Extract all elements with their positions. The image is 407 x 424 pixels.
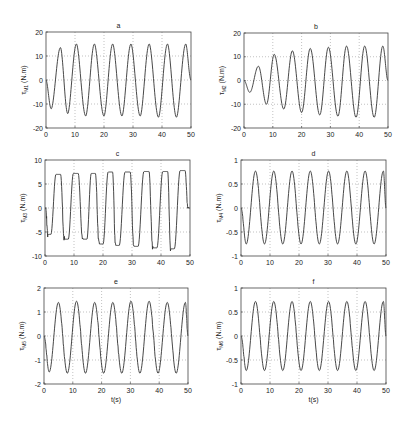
x-tick-label: 30 [327,131,335,138]
y-tick-label: 0 [39,77,43,84]
x-tick-label: 0 [239,387,243,394]
x-axis-label: t(s) [111,396,121,404]
subplot-c: 01020304050-10-50510cτM3(N.m) [19,150,194,266]
y-label-unit: (N.m) [18,321,26,339]
x-tick-label: 50 [382,387,390,394]
y-axis-label: τM5(N.m) [18,321,27,350]
x-axis-label: t(s) [308,396,318,404]
figure-six-torque-plots: 01020304050-20-1001020aτM1(N.m)010203040… [0,0,407,424]
y-axis-label: τM4(N.m) [215,193,224,222]
y-tick-label: 20 [35,29,43,36]
y-tick-label: 0 [37,333,41,340]
x-tick-label: 50 [186,259,194,266]
y-label-unit: (N.m) [215,321,223,339]
subplot-title: e [114,278,118,285]
x-tick-label: 10 [266,259,274,266]
x-tick-label: 10 [69,387,77,394]
x-tick-label: 20 [295,259,303,266]
y-tick-label: 0.5 [228,181,238,188]
y-label-subscript: M5 [21,341,27,348]
y-tick-label: 1 [37,309,41,316]
y-tick-label: 0 [234,205,238,212]
y-tick-label: 10 [35,53,43,60]
x-tick-label: 0 [242,131,246,138]
y-axis-label: τM6(N.m) [215,321,224,350]
x-tick-label: 40 [157,259,165,266]
x-tick-label: 10 [266,387,274,394]
y-tick-label: 1 [234,157,238,164]
x-tick-label: 50 [384,131,392,138]
x-tick-label: 0 [239,259,243,266]
x-tick-label: 50 [184,387,192,394]
y-label-subscript: M1 [23,85,29,92]
y-tick-label: -0.5 [226,229,238,236]
x-tick-label: 30 [128,259,136,266]
subplot-f: 01020304050-1-0.500.51fτM6(N.m)t(s) [215,278,390,404]
x-tick-label: 0 [44,131,48,138]
subplot-title: f [313,278,315,285]
subplot-title: a [117,22,121,29]
y-tick-label: -1 [35,357,41,364]
x-tick-label: 0 [43,259,47,266]
y-tick-label: 1 [234,285,238,292]
y-tick-label: 0 [234,333,238,340]
x-tick-label: 30 [324,259,332,266]
y-tick-label: 10 [34,157,42,164]
y-label-subscript: M6 [218,341,224,348]
y-tick-label: -10 [33,101,43,108]
x-tick-label: 20 [100,131,108,138]
subplot-title: d [312,150,316,157]
y-tick-label: -5 [36,229,42,236]
y-tick-label: 20 [233,30,241,37]
y-tick-label: -1 [232,253,238,260]
x-tick-label: 10 [71,131,79,138]
y-label-unit: (N.m) [19,193,27,211]
x-tick-label: 40 [355,131,363,138]
x-tick-label: 40 [353,387,361,394]
subplot-e: 01020304050-2-1012eτM5(N.m)t(s) [18,278,192,404]
x-tick-label: 20 [98,387,106,394]
x-tick-label: 40 [155,387,163,394]
y-tick-label: 2 [37,285,41,292]
x-tick-label: 50 [187,131,195,138]
x-tick-label: 20 [295,387,303,394]
y-tick-label: 0 [237,77,241,84]
x-tick-label: 10 [269,131,277,138]
y-tick-label: -10 [231,101,241,108]
x-tick-label: 10 [70,259,78,266]
y-tick-label: 0.5 [228,309,238,316]
x-tick-label: 0 [42,387,46,394]
y-label-subscript: M3 [22,213,28,220]
y-tick-label: 0 [38,205,42,212]
y-tick-label: -0.5 [226,357,238,364]
x-tick-label: 50 [382,259,390,266]
y-label-unit: (N.m) [215,193,223,211]
y-label-subscript: M4 [218,213,224,220]
y-axis-label: τM1(N.m) [20,65,29,94]
x-tick-label: 30 [324,387,332,394]
y-tick-label: -20 [231,125,241,132]
y-tick-label: -1 [232,381,238,388]
x-tick-label: 20 [99,259,107,266]
y-tick-label: 5 [38,181,42,188]
y-axis-label: τM2(N.m) [218,66,227,95]
y-tick-label: -20 [33,125,43,132]
y-axis-label: τM3(N.m) [19,193,28,222]
subplot-a: 01020304050-20-1001020aτM1(N.m) [20,22,195,138]
x-tick-label: 30 [127,387,135,394]
subplot-b: 01020304050-20-1001020bτM2(N.m) [218,23,392,138]
y-label-subscript: M2 [221,85,227,92]
y-label-unit: (N.m) [218,66,226,84]
x-tick-label: 40 [353,259,361,266]
subplot-title: b [314,23,318,30]
subplot-d: 01020304050-1-0.500.51dτM4(N.m) [215,150,390,266]
y-tick-label: 10 [233,53,241,60]
figure-canvas: 01020304050-20-1001020aτM1(N.m)010203040… [0,0,407,424]
y-label-unit: (N.m) [20,65,28,83]
x-tick-label: 40 [158,131,166,138]
y-tick-label: -2 [35,381,41,388]
x-tick-label: 20 [298,131,306,138]
subplot-title: c [116,150,120,157]
x-tick-label: 30 [129,131,137,138]
y-tick-label: -10 [32,253,42,260]
